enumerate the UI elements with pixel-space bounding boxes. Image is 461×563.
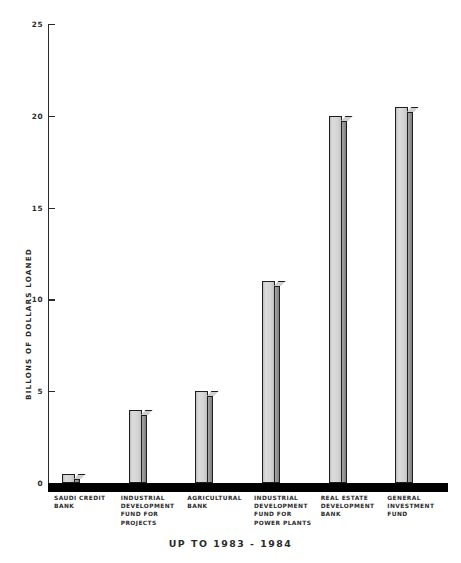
bar-chart: BILLONS OF DOLLARS LOANED 0510152025 SAU… bbox=[0, 0, 461, 563]
x-axis-category-label-line: SAUDI CREDIT bbox=[54, 494, 118, 502]
bar-top-face bbox=[141, 410, 153, 415]
x-axis-category-label-line: FUND FOR bbox=[121, 510, 185, 518]
bar-side-face bbox=[142, 415, 147, 483]
bar-top-face bbox=[407, 107, 419, 112]
x-axis-category-label: INDUSTRIALDEVELOPMENTFUND FORPOWER PLANT… bbox=[254, 494, 318, 527]
x-axis-category-labels: SAUDI CREDITBANKINDUSTRIALDEVELOPMENTFUN… bbox=[48, 494, 448, 536]
bar-front-face bbox=[395, 107, 408, 483]
y-axis-tick-label: 15 bbox=[32, 203, 43, 212]
y-axis-tick-label: 25 bbox=[32, 20, 43, 29]
x-axis-category-label-line: FUND bbox=[387, 510, 451, 518]
y-axis-tick-label: 10 bbox=[32, 295, 43, 304]
x-axis-category-label-line: DEVELOPMENT bbox=[121, 502, 185, 510]
x-axis-category-label-line: INVESTMENT bbox=[387, 502, 451, 510]
bar bbox=[395, 107, 413, 483]
bar-top-face bbox=[74, 474, 86, 479]
x-axis-category-label-line: BANK bbox=[187, 502, 251, 510]
bar bbox=[129, 410, 147, 483]
y-axis-tick-label: 20 bbox=[32, 111, 43, 120]
x-axis-category-label: SAUDI CREDITBANK bbox=[54, 494, 118, 510]
bar bbox=[195, 391, 213, 483]
x-axis-category-label-line: INDUSTRIAL bbox=[254, 494, 318, 502]
bar-front-face bbox=[329, 116, 342, 483]
x-axis-category-label-line: REAL ESTATE bbox=[321, 494, 385, 502]
bar-side-face bbox=[208, 396, 213, 483]
x-axis-category-label-line: BANK bbox=[321, 510, 385, 518]
x-axis-category-label: REAL ESTATEDEVELOPMENTBANK bbox=[321, 494, 385, 519]
x-axis-category-label-line: INDUSTRIAL bbox=[121, 494, 185, 502]
y-axis-tick-label: 5 bbox=[37, 387, 43, 396]
bars-layer bbox=[48, 24, 448, 483]
bar-front-face bbox=[129, 410, 142, 483]
x-axis-category-label-line: DEVELOPMENT bbox=[321, 502, 385, 510]
bar-side-face bbox=[408, 112, 413, 483]
x-axis-category-label-line: POWER PLANTS bbox=[254, 519, 318, 527]
x-axis-category-label: GENERALINVESTMENTFUND bbox=[387, 494, 451, 519]
x-axis-category-label-line: DEVELOPMENT bbox=[254, 502, 318, 510]
x-axis-title: UP TO 1983 - 1984 bbox=[0, 538, 461, 549]
x-axis-category-label-line: GENERAL bbox=[387, 494, 451, 502]
bar bbox=[329, 116, 347, 483]
x-axis-category-label-line: PROJECTS bbox=[121, 519, 185, 527]
x-axis-category-label-line: BANK bbox=[54, 502, 118, 510]
y-axis-title: BILLONS OF DOLLARS LOANED bbox=[22, 100, 36, 400]
bar bbox=[262, 281, 280, 483]
bar-side-face bbox=[275, 286, 280, 483]
bar-front-face bbox=[195, 391, 208, 483]
bar bbox=[62, 474, 80, 483]
bar-side-face bbox=[342, 121, 347, 483]
x-axis-category-label: AGRICULTURALBANK bbox=[187, 494, 251, 510]
x-axis-category-label: INDUSTRIALDEVELOPMENTFUND FORPROJECTS bbox=[121, 494, 185, 527]
y-axis-tick-label: 0 bbox=[37, 479, 43, 488]
bar-top-face bbox=[341, 116, 353, 121]
bar-top-face bbox=[207, 391, 219, 396]
bar-front-face bbox=[262, 281, 275, 483]
bar-top-face bbox=[274, 281, 286, 286]
x-axis-baseline bbox=[48, 483, 448, 492]
x-axis-category-label-line: FUND FOR bbox=[254, 510, 318, 518]
x-axis-category-label-line: AGRICULTURAL bbox=[187, 494, 251, 502]
plot-area: 0510152025 bbox=[48, 24, 448, 487]
